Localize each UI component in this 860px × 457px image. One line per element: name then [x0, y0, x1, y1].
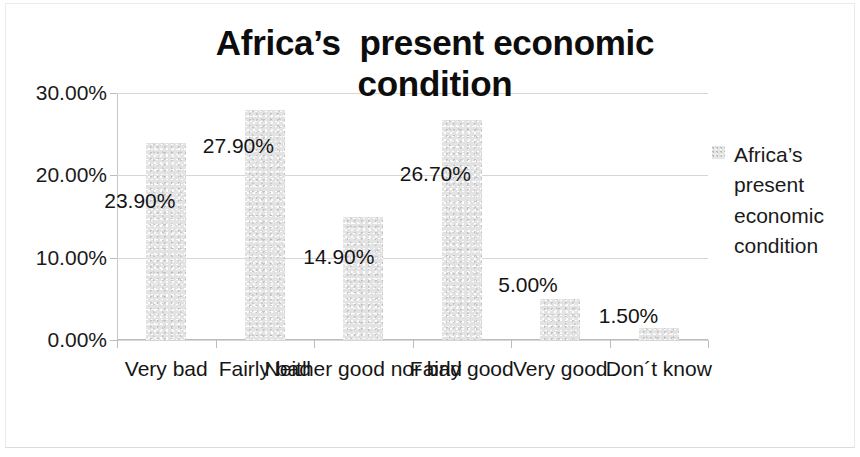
y-axis-tick-label: 30.00% [36, 81, 107, 105]
legend-label: Africa’spresenteconomiccondition [734, 140, 824, 262]
bar-value-label: 5.00% [498, 273, 558, 297]
y-tick-mark [110, 258, 117, 259]
x-axis-category-label: Fairly good [410, 358, 514, 379]
x-tick-mark [117, 340, 118, 348]
y-axis-tick-label: 0.00% [47, 328, 107, 352]
bar[interactable] [343, 217, 383, 340]
legend-label-line: present [734, 173, 804, 196]
bar-value-label: 26.70% [400, 162, 471, 186]
x-tick-mark [511, 340, 512, 348]
bar-value-label: 27.90% [203, 134, 274, 158]
bar-value-label: 14.90% [303, 245, 374, 269]
y-axis-tick-label: 10.00% [36, 246, 107, 270]
bar-value-label: 23.90% [104, 189, 175, 213]
x-tick-mark [708, 340, 709, 348]
bar-slot [117, 93, 216, 340]
x-axis-category-label: Very bad [125, 358, 208, 379]
x-axis-category-label: Don´t know [606, 358, 712, 379]
chart-legend: Africa’spresenteconomiccondition [712, 140, 852, 262]
y-tick-mark [110, 93, 117, 94]
bar-value-label: 1.50% [599, 304, 659, 328]
legend-swatch-icon [712, 146, 725, 159]
plot-area: 0.00%10.00%20.00%30.00% 23.90%27.90%14.9… [117, 93, 708, 340]
bar-chart: Africa’s present economic condition 0.00… [0, 0, 860, 457]
bar[interactable] [442, 120, 482, 340]
bar-slot [216, 93, 315, 340]
y-tick-mark [110, 175, 117, 176]
chart-title: Africa’s present economic condition [150, 22, 720, 105]
x-axis-category-label: Very good [513, 358, 608, 379]
x-tick-mark [314, 340, 315, 348]
x-axis-labels: Very badFairly badNeither good nor badFa… [117, 358, 708, 388]
x-tick-mark [216, 340, 217, 348]
bar[interactable] [540, 299, 580, 340]
chart-screenshot: Africa’s present economic condition 0.00… [0, 0, 860, 457]
legend-label-line: Africa’s [734, 143, 802, 166]
legend-label-line: condition [734, 234, 818, 257]
bar-slot [314, 93, 413, 340]
bar[interactable] [146, 143, 186, 340]
bar-slot [413, 93, 512, 340]
bar-slot [511, 93, 610, 340]
bar[interactable] [639, 328, 679, 340]
x-tick-mark [610, 340, 611, 348]
legend-label-line: economic [734, 204, 824, 227]
x-tick-mark [413, 340, 414, 348]
y-tick-mark [110, 340, 117, 341]
y-axis-tick-label: 20.00% [36, 163, 107, 187]
